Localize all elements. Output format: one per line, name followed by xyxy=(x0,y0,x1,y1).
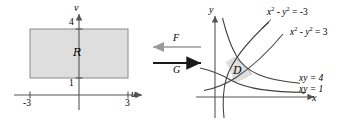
v-tick-label-4: 4 xyxy=(69,18,74,28)
y-axis-label: y xyxy=(209,5,213,15)
curve-hyperbola-pos3 xyxy=(204,34,283,91)
curve-label-xy-1: xy = 1 xyxy=(299,85,323,95)
v-axis-label: v xyxy=(74,3,78,13)
mapping-label-f: F xyxy=(173,33,179,43)
leader-neg3 xyxy=(262,20,271,29)
left-plot-group xyxy=(14,14,142,110)
mapping-arrows-group xyxy=(153,47,201,63)
curve-label-xy-4: xy = 4 xyxy=(299,74,323,84)
u-tick-label-3: 3 xyxy=(125,99,130,109)
curve-label-pos3-eq: = 3 xyxy=(313,27,328,37)
x-axis-label: x xyxy=(312,93,316,103)
region-r-label: R xyxy=(73,47,81,58)
v-tick-label-1: 1 xyxy=(69,79,74,89)
curve-label-hyperbola-pos3: x2 - y2 = 3 xyxy=(290,26,328,38)
curve-label-hyperbola-neg3: x2 - y2 = -3 xyxy=(267,6,308,18)
u-tick-label-neg3: -3 xyxy=(23,99,31,109)
region-d-label: D xyxy=(233,65,242,76)
figure-canvas xyxy=(0,0,364,124)
mapping-label-g: G xyxy=(173,65,180,75)
change-of-variables-figure: v u -3 3 1 4 R F G y x D x2 - y2 = -3 x2… xyxy=(0,0,364,124)
curve-label-neg3-eq: = -3 xyxy=(290,7,308,17)
u-axis-label: u xyxy=(131,89,136,99)
